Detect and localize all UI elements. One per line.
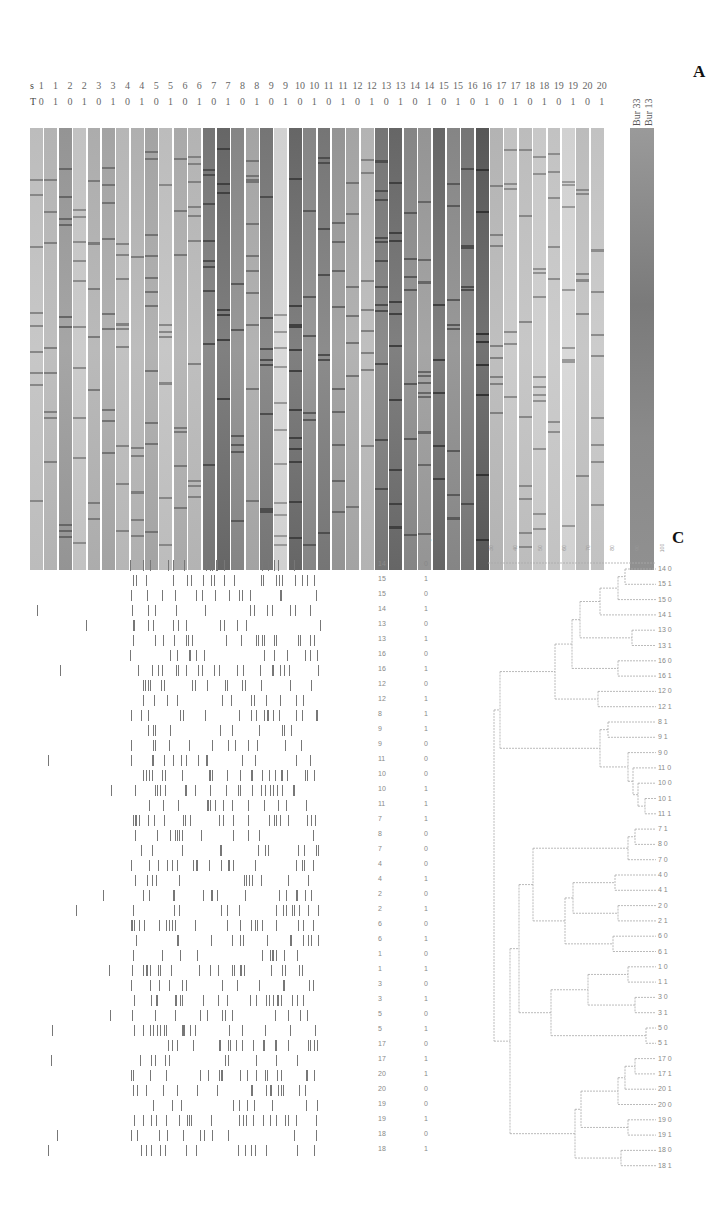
band-pattern-row: 200 [30,1085,450,1097]
gel-band [476,333,489,335]
band-mark [153,1100,154,1111]
gel-lane [303,128,316,570]
band-row-treatment: 1 [424,965,428,972]
gel-band [44,461,57,463]
gel-band [174,210,187,212]
gel-lane [389,128,402,570]
gel-lane [274,128,287,570]
gel-band [246,255,259,257]
band-mark [308,1040,309,1051]
band-mark [211,575,212,586]
band-mark [206,560,207,571]
band-mark [208,800,209,811]
treatment-lane-label: 1 [250,96,264,107]
band-mark [160,1025,161,1036]
band-mark [178,620,179,631]
gel-band [102,167,115,169]
band-mark [131,740,132,751]
band-mark [266,695,267,706]
sample-lane-label: 20 [595,80,609,91]
treatment-lane-label: 0 [149,96,163,107]
gel-band [289,178,302,180]
band-mark [212,740,213,751]
band-mark [136,935,137,946]
gel-band [461,245,474,247]
band-mark [200,1010,201,1021]
band-mark [247,1100,248,1111]
gel-band [246,175,259,177]
band-mark [272,605,273,616]
sample-lane-label: 16 [465,80,479,91]
band-pattern-row: 151 [30,575,450,587]
band-mark [242,755,243,766]
band-row-sample: 8 [378,830,382,837]
band-mark [155,740,156,751]
band-mark [167,1130,168,1141]
band-mark [250,590,251,601]
gel-band [346,286,359,288]
band-mark [273,995,274,1006]
band-mark [149,860,150,871]
band-mark [305,890,306,901]
gel-band [231,451,244,453]
band-mark [160,965,161,976]
band-mark [307,815,308,826]
gel-band [576,475,589,477]
band-mark [224,620,225,631]
band-mark [196,650,197,661]
band-mark [186,635,187,646]
band-row-sample: 14 [378,560,386,567]
gel-band [418,282,431,284]
band-mark [288,1040,289,1051]
band-mark [166,1115,167,1126]
gel-band [274,535,287,537]
gel-lane [346,128,359,570]
band-row-treatment: 1 [424,710,428,717]
gel-lane [44,128,57,570]
gel-lane [447,128,460,570]
gel-band [418,464,431,466]
band-mark [157,830,158,841]
gel-band [159,184,172,186]
gel-band [217,339,230,341]
gel-band [389,182,402,184]
gel-band [289,409,302,411]
gel-band [131,492,144,494]
band-mark [242,1040,243,1051]
band-row-treatment: 0 [424,980,428,987]
gel-band [404,534,417,536]
treatment-lane-label: 1 [393,96,407,107]
gel-lane [375,128,388,570]
band-mark [318,665,319,676]
band-pattern-row: 170 [30,1040,450,1052]
gel-band [490,383,503,385]
band-mark [215,800,216,811]
gel-band [73,260,86,262]
treatment-lane-label: 0 [34,96,48,107]
band-mark [265,785,266,796]
gel-band [102,328,115,330]
band-mark [252,770,253,781]
band-mark [273,950,274,961]
gel-band [159,324,172,326]
dendrogram-leaf-label: 11 0 [658,764,671,771]
band-pattern-row: 10 [30,950,450,962]
band-mark [187,575,188,586]
band-mark [151,1145,152,1156]
gel-band [217,398,230,400]
band-mark [309,980,310,991]
gel-band [246,292,259,294]
band-mark [228,1130,229,1141]
band-mark [211,1115,212,1126]
band-mark [141,710,142,721]
band-mark [152,875,153,886]
dendrogram-leaf-label: 7 0 [658,856,668,863]
band-row-sample: 7 [378,845,382,852]
band-mark [155,785,156,796]
gel-band [145,291,158,293]
gel-band [361,330,374,332]
band-mark [146,965,147,976]
band-mark [278,800,279,811]
gel-lane [476,128,489,570]
band-mark [282,725,283,736]
